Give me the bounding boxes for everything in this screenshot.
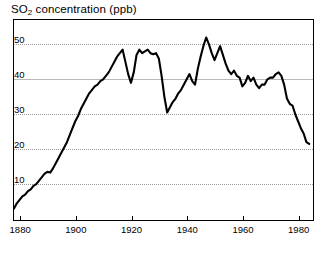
plot-inner: [14, 20, 313, 220]
chart-screenshot: SO2 concentration (ppb) 1020304050 18801…: [0, 0, 329, 256]
y-tick-label-20: 20: [14, 139, 25, 150]
x-tick-label-1920: 1920: [121, 224, 142, 235]
x-tick-mark-1920: [132, 216, 133, 220]
x-tick-label-1980: 1980: [288, 224, 309, 235]
x-tick-label-1960: 1960: [232, 224, 253, 235]
x-tick-mark-1940: [187, 216, 188, 220]
chart-title-main: SO: [11, 3, 28, 15]
x-tick-mark-1960: [243, 216, 244, 220]
x-tick-label-1900: 1900: [65, 224, 86, 235]
y-tick-label-40: 40: [14, 69, 25, 80]
plot-area: [13, 19, 314, 221]
x-tick-mark-1900: [76, 216, 77, 220]
chart-title-rest: concentration (ppb): [32, 3, 136, 15]
chart-title-subscript: 2: [28, 8, 32, 17]
x-tick-mark-1980: [299, 216, 300, 220]
chart-title: SO2 concentration (ppb): [11, 3, 137, 15]
y-tick-label-50: 50: [14, 34, 25, 45]
data-series-svg: [14, 20, 312, 219]
x-tick-label-1940: 1940: [177, 224, 198, 235]
y-tick-label-10: 10: [14, 174, 25, 185]
y-tick-label-30: 30: [14, 104, 25, 115]
so2-concentration-line: [14, 37, 309, 208]
x-tick-mark-1880: [20, 216, 21, 220]
x-tick-label-1880: 1880: [10, 224, 31, 235]
